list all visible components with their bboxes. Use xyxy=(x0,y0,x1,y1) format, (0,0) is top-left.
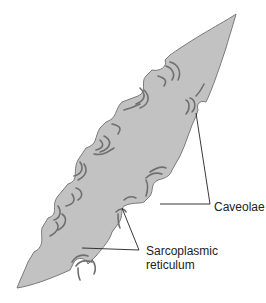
sr-leader-upper xyxy=(122,208,139,250)
smooth-muscle-cell-diagram xyxy=(0,0,266,303)
sr-label-line2: reticulum xyxy=(146,258,218,272)
sarcoplasmic-reticulum-label: Sarcoplasmic reticulum xyxy=(146,244,218,272)
sr-label-line1: Sarcoplasmic xyxy=(146,244,218,258)
caveolae-label: Caveolae xyxy=(214,200,265,214)
caveolae-leader-upper xyxy=(196,113,210,204)
